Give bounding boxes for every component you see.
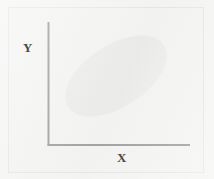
x-axis-label: X xyxy=(117,151,127,164)
correlation-ellipse xyxy=(51,19,180,133)
figure-root: Y X xyxy=(0,0,214,179)
y-axis-label: Y xyxy=(23,41,33,54)
plot-canvas xyxy=(0,0,214,179)
